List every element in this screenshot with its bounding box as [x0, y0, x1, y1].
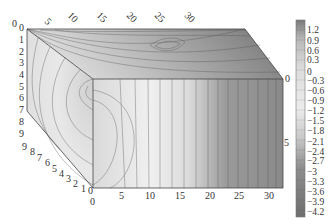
svg-text:1: 1	[19, 34, 24, 45]
svg-text:5: 5	[43, 16, 54, 27]
svg-text:7: 7	[19, 104, 24, 115]
3d-contour-chart: 0 5 10 15 20 25 30 0 1 2 3 4 5 6 7 8 9 9…	[0, 0, 335, 224]
svg-text:4: 4	[59, 168, 64, 179]
svg-text:8: 8	[30, 146, 35, 157]
svg-text:7: 7	[37, 152, 42, 163]
svg-text:3: 3	[19, 57, 24, 68]
svg-text:2: 2	[73, 178, 78, 189]
svg-text:−1.5: −1.5	[307, 116, 324, 126]
svg-text:9: 9	[22, 141, 27, 152]
svg-text:−0.6: −0.6	[307, 86, 324, 96]
svg-text:−4.2: −4.2	[307, 207, 324, 217]
top-axis-labels: 0 5 10 15 20 25 30	[12, 10, 197, 29]
bottom-axis-labels: 0 5 10 15 20 25 30	[90, 190, 274, 207]
svg-text:15: 15	[95, 10, 110, 25]
left-vertical-axis-labels: 0 1 2 3 4 5 6 7 8 9	[19, 22, 24, 139]
svg-text:25: 25	[234, 190, 244, 201]
svg-text:−3: −3	[307, 167, 317, 177]
svg-text:20: 20	[205, 190, 215, 201]
svg-text:20: 20	[125, 10, 140, 25]
svg-text:30: 30	[183, 10, 198, 25]
svg-text:4: 4	[19, 69, 24, 80]
svg-text:0: 0	[90, 196, 95, 207]
svg-text:8: 8	[19, 116, 24, 127]
svg-text:−2.1: −2.1	[307, 137, 324, 147]
front-face	[93, 79, 283, 188]
svg-text:1.2: 1.2	[307, 25, 319, 35]
svg-text:15: 15	[175, 190, 185, 201]
svg-text:−3.3: −3.3	[307, 177, 324, 187]
svg-text:0: 0	[19, 22, 24, 33]
svg-text:0: 0	[12, 18, 17, 29]
svg-text:−0.3: −0.3	[307, 76, 324, 86]
svg-text:9: 9	[19, 128, 24, 139]
svg-text:10: 10	[66, 10, 81, 25]
right-edge-labels: 0 5	[284, 73, 290, 148]
svg-text:−1.8: −1.8	[307, 126, 324, 136]
svg-text:−2.7: −2.7	[307, 156, 324, 166]
svg-text:−3.9: −3.9	[307, 197, 324, 207]
svg-text:6: 6	[45, 157, 50, 168]
svg-text:6: 6	[19, 92, 24, 103]
svg-text:1: 1	[81, 183, 86, 194]
svg-text:25: 25	[153, 10, 168, 25]
svg-text:10: 10	[145, 190, 155, 201]
svg-text:2: 2	[19, 46, 24, 57]
svg-text:5: 5	[52, 163, 57, 174]
svg-text:5: 5	[19, 81, 24, 92]
svg-text:3: 3	[66, 173, 71, 184]
svg-text:0.3: 0.3	[307, 55, 319, 65]
colorbar: 1.2 0.9 0.6 0.3 0 −0.3 −0.6 −0.9 −1.2 −1…	[296, 20, 324, 217]
svg-text:−0.9: −0.9	[307, 96, 324, 106]
svg-text:5: 5	[284, 137, 289, 148]
svg-text:−3.6: −3.6	[307, 187, 324, 197]
svg-text:0: 0	[88, 185, 93, 196]
svg-text:0.9: 0.9	[307, 36, 319, 46]
svg-text:0: 0	[285, 73, 290, 84]
svg-text:−1.2: −1.2	[307, 106, 324, 116]
svg-text:5: 5	[119, 190, 124, 201]
svg-text:30: 30	[264, 190, 274, 201]
